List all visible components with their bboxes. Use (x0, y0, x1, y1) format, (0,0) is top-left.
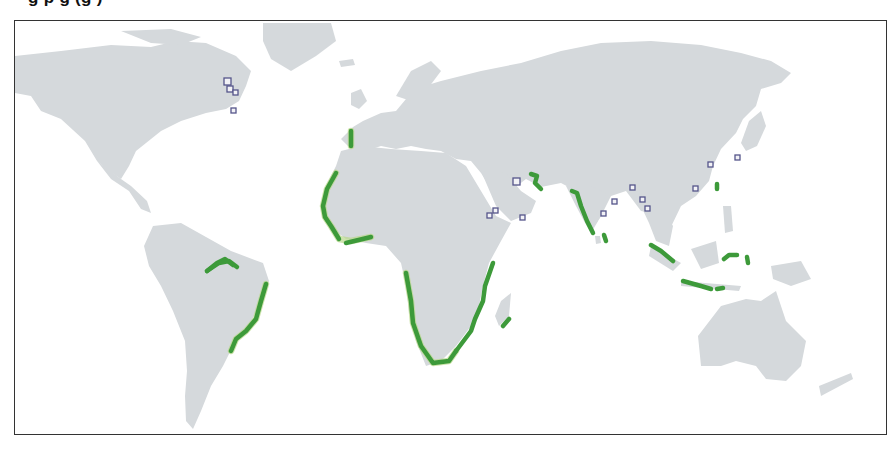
land-borneo (691, 241, 719, 269)
site-marker[interactable] (645, 206, 650, 211)
land-british-isles (351, 89, 367, 109)
site-marker[interactable] (630, 185, 635, 190)
world-map (15, 21, 887, 435)
land-iceland (339, 59, 355, 67)
site-marker[interactable] (224, 78, 231, 85)
site-marker[interactable] (735, 155, 740, 160)
map-title-text: g p g (g ) (28, 0, 103, 8)
land-australia (698, 291, 806, 381)
land-sumatra (649, 246, 681, 271)
land-greenland (263, 23, 336, 71)
site-marker[interactable] (233, 90, 238, 95)
site-marker[interactable] (693, 186, 698, 191)
site-marker[interactable] (640, 197, 645, 202)
site-marker[interactable] (493, 208, 498, 213)
site-marker[interactable] (487, 213, 492, 218)
land-new-zealand (819, 373, 853, 396)
land-sri-lanka (595, 236, 601, 244)
world-map-frame (14, 20, 887, 435)
coast-sulawesi (724, 255, 737, 259)
site-marker[interactable] (520, 215, 525, 220)
site-marker[interactable] (227, 86, 233, 92)
map-title-cropped: g p g (g ) (0, 0, 896, 8)
site-marker[interactable] (612, 199, 617, 204)
site-marker[interactable] (601, 211, 606, 216)
coast-sri-lanka (604, 235, 606, 241)
site-marker[interactable] (513, 178, 520, 185)
site-marker[interactable] (708, 162, 713, 167)
site-marker[interactable] (231, 108, 236, 113)
land-new-guinea (771, 261, 811, 286)
coast-lesser-sunda (717, 288, 723, 289)
land-north-america (15, 41, 251, 179)
land-philippines (723, 206, 733, 233)
coast-maluku (747, 257, 748, 263)
